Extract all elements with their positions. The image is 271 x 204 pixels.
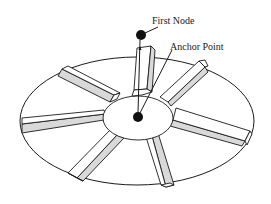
rib-lower-right — [146, 133, 174, 187]
rib-upper-right — [160, 60, 208, 106]
rib-right — [170, 108, 252, 146]
anchor-point-dot — [133, 112, 143, 122]
rib-left — [22, 110, 105, 133]
first-node-dot — [136, 30, 146, 40]
first-node-label: First Node — [152, 15, 195, 26]
first-node-leader — [145, 27, 158, 33]
rib-lower-left — [68, 129, 124, 181]
rib-back-center — [132, 46, 155, 96]
anchor-point-label: Anchor Point — [170, 41, 224, 52]
disc-diagram: First Node Anchor Point — [0, 0, 271, 204]
rib-upper-left — [58, 66, 120, 102]
